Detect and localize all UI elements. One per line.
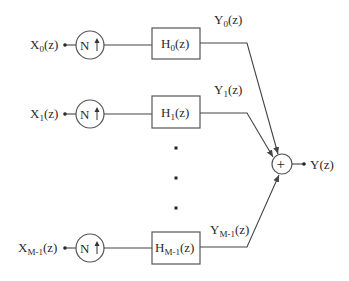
- branch-1: X1(z) N H1(z) Y1(z): [30, 82, 273, 157]
- output-node: [302, 162, 306, 166]
- filter-label-1: H1(z): [161, 105, 189, 122]
- final-output-label: Y(z): [310, 157, 334, 172]
- plus-icon: +: [277, 156, 285, 172]
- output-label-0: Y0(z): [214, 12, 242, 29]
- branch-m-1: XM-1(z) N HM-1(z) YM-1(z): [18, 175, 279, 264]
- output-label-1: Y1(z): [214, 82, 242, 99]
- upsampler-label-1: N: [80, 107, 90, 122]
- input-label-1: X1(z): [30, 106, 58, 123]
- output-label-m-1: YM-1(z): [210, 222, 249, 239]
- input-label-0: X0(z): [30, 37, 58, 54]
- upsampler-label-m-1: N: [80, 241, 90, 256]
- input-label-m-1: XM-1(z): [18, 240, 57, 257]
- summer: + Y(z): [272, 154, 334, 174]
- filter-label-0: H0(z): [161, 36, 189, 53]
- vertical-ellipsis: [175, 147, 178, 210]
- upsampler-label-0: N: [80, 38, 90, 53]
- filter-bank-diagram: X0(z) N H0(z) Y0(z) X1(z) N H1(z) Y1(z) …: [0, 0, 349, 281]
